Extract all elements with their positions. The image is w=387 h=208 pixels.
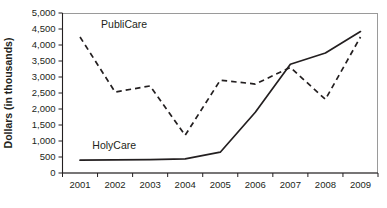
x-tick-label: 2005 (210, 179, 231, 190)
y-tick-label: 4,000 (32, 39, 56, 50)
line-chart: 05001,0001,5002,0002,5003,0003,5004,0004… (0, 0, 387, 208)
y-tick-label: 5,000 (32, 7, 56, 18)
x-tick-label: 2002 (105, 179, 126, 190)
y-tick-label: 2,000 (32, 103, 56, 114)
chart-canvas: 05001,0001,5002,0002,5003,0003,5004,0004… (0, 0, 387, 208)
series-label-holycare: HolyCare (92, 139, 136, 151)
x-tick-label: 2007 (280, 179, 301, 190)
y-axis-title: Dollars (in thousands) (2, 38, 14, 149)
y-tick-label: 3,500 (32, 55, 56, 66)
x-tick-label: 2008 (315, 179, 336, 190)
y-tick-label: 3,000 (32, 71, 56, 82)
y-tick-label: 4,500 (32, 23, 56, 34)
y-tick-label: 1,000 (32, 135, 56, 146)
y-tick-label: 1,500 (32, 119, 56, 130)
x-tick-label: 2004 (175, 179, 196, 190)
y-tick-label: 2,500 (32, 87, 56, 98)
x-axis-tick-labels: 200120022003200420052006200720082009 (69, 179, 371, 190)
x-tick-label: 2006 (245, 179, 266, 190)
x-tick-label: 2009 (350, 179, 371, 190)
x-tick-label: 2001 (69, 179, 90, 190)
y-tick-label: 500 (40, 151, 56, 162)
y-tick-label: 0 (50, 167, 55, 178)
x-tick-label: 2003 (140, 179, 161, 190)
series-label-publicare: PubliCare (101, 18, 147, 30)
